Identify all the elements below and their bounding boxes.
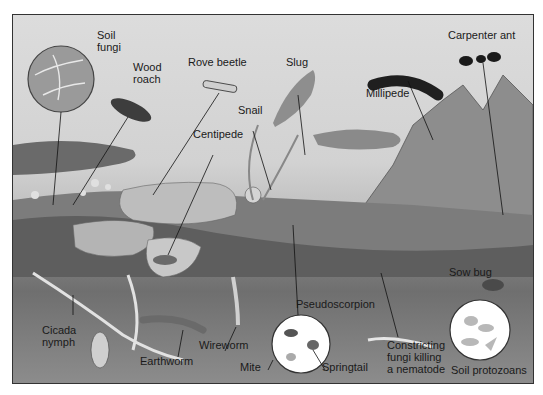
label-soil-protozoans: Soil protozoans (451, 364, 527, 376)
rock-ledge (313, 129, 401, 149)
wireworm-figure (233, 277, 238, 325)
label-mite: Mite (240, 361, 261, 373)
flat-rock-2 (73, 220, 154, 256)
carpenter-ant-figure (459, 52, 501, 66)
label-earthworm: Earthworm (140, 355, 193, 367)
soil-ecosystem-illustration (13, 15, 533, 383)
soil-fungi-inset (28, 46, 94, 112)
label-snail: Snail (238, 104, 262, 116)
earthworm-figure (143, 319, 203, 330)
cicada-nymph-figure (91, 332, 109, 368)
label-slug: Slug (286, 56, 308, 68)
centipede-figure (153, 255, 177, 265)
wood-roach-figure (108, 93, 155, 126)
slug-figure (273, 70, 315, 127)
label-cicada-nymph: Cicada nymph (42, 324, 76, 348)
label-wood-roach: Wood roach (133, 61, 162, 85)
label-millipede: Millipede (366, 87, 409, 99)
label-springtail: Springtail (322, 361, 368, 373)
label-rove-beetle: Rove beetle (188, 56, 247, 68)
dark-ledge (13, 141, 136, 175)
flat-rock-1 (120, 182, 237, 224)
diagram-frame: Soil fungi Wood roach Rove beetle Snail … (12, 14, 534, 384)
label-carpenter-ant: Carpenter ant (448, 29, 515, 41)
label-sow-bug: Sow bug (449, 266, 492, 278)
label-wireworm: Wireworm (199, 339, 249, 351)
rove-beetle-figure (203, 80, 238, 93)
sow-bug-figure (482, 279, 504, 291)
label-constricting-fungi: Constricting fungi killing a nematode (387, 339, 445, 375)
label-soil-fungi: Soil fungi (97, 29, 121, 53)
snail-figure (245, 187, 261, 203)
label-centipede: Centipede (193, 128, 243, 140)
label-pseudoscorpion: Pseudoscorpion (296, 298, 375, 310)
